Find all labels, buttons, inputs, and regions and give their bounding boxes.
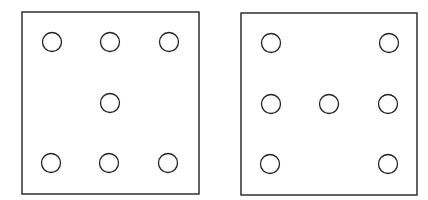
circle-dot (261, 155, 280, 174)
circle-dot (262, 34, 281, 53)
circle-dot (101, 94, 120, 113)
panel-border (241, 13, 417, 195)
circle-dot (100, 154, 119, 173)
diagram-canvas (0, 0, 428, 200)
circle-dot (379, 155, 398, 174)
circle-dot (320, 95, 339, 114)
left-panel (22, 12, 199, 194)
circle-dot (42, 154, 61, 173)
circle-dot (262, 95, 281, 114)
circle-dot (160, 33, 179, 52)
right-panel (241, 13, 417, 195)
panel-border (22, 12, 199, 194)
circle-dot (159, 154, 178, 173)
circle-dot (380, 34, 399, 53)
circle-dot (101, 33, 120, 52)
circle-dot (43, 33, 62, 52)
circle-dot (379, 95, 398, 114)
